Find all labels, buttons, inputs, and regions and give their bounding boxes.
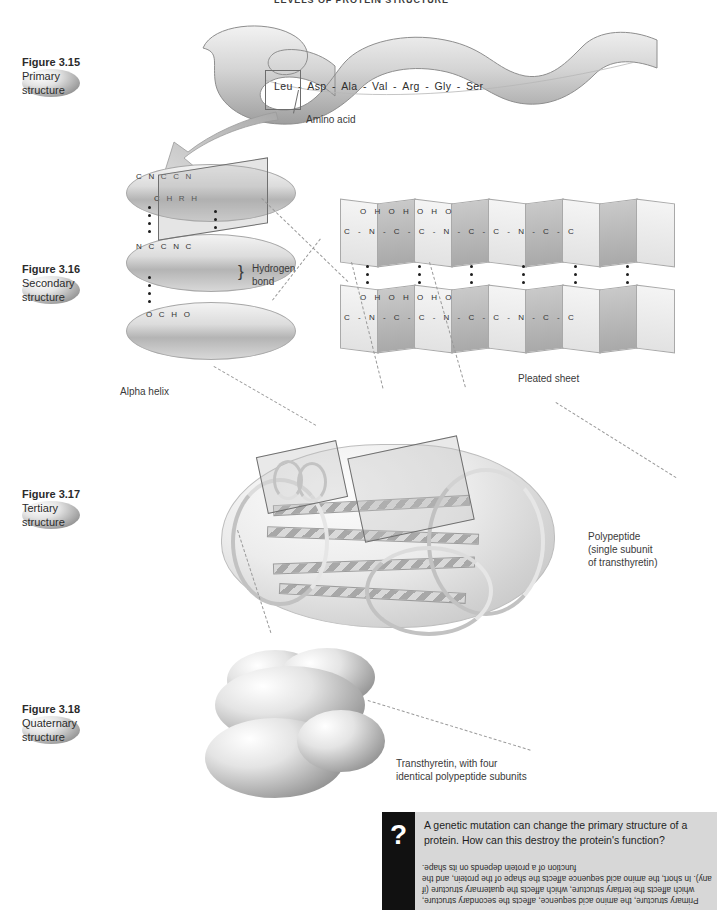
residue-val: Val [371, 80, 389, 92]
sheet-atom-row-2: C - N - C - C - N - C - C - N - C - C [344, 313, 577, 322]
residue-gly: Gly [433, 80, 452, 92]
question-mark-icon: ? [382, 812, 415, 858]
residue-ala: Ala [340, 80, 358, 92]
polypeptide-callout: Polypeptide (single subunit of transthyr… [588, 530, 657, 569]
figure-title-primary: Primary structure [22, 69, 80, 97]
pleat-facet [636, 199, 675, 268]
sequence-sep-4: - [392, 80, 398, 92]
sheet-hydrogen-bond-dots [626, 265, 629, 289]
hydrogen-bond-brace-icon: } [238, 262, 244, 282]
alpha-helix-label: Alpha helix [120, 385, 169, 398]
sheet-atom-row-1b: O H O H O H O [360, 207, 455, 216]
pleat-facet [636, 285, 675, 354]
question-box: ? A genetic mutation can change the prim… [382, 812, 717, 858]
residue-asp: Asp [306, 80, 327, 92]
polypeptide-callout-line1: Polypeptide [588, 531, 640, 542]
amino-acid-callout: Amino acid [306, 113, 355, 126]
sequence-sep-2: - [331, 80, 337, 92]
polypeptide-callout-line2: (single subunit [588, 544, 652, 555]
residue-ser: Ser [465, 80, 485, 92]
answer-box: Primary structure, the amino acid sequen… [382, 858, 717, 910]
figure-label-tertiary: Figure 3.17 Tertiary structure [22, 487, 80, 501]
hydrogen-bond-dots-mid [214, 210, 217, 234]
transthyretin-callout-line2: identical polypeptide subunits [396, 771, 527, 782]
ribbon-loop [365, 546, 493, 636]
sheet-hydrogen-bond-dots [470, 265, 473, 289]
sequence-sep-3: - [362, 80, 368, 92]
figure-title-secondary: Secondary structure [22, 276, 80, 304]
question-text: A genetic mutation can change the primar… [424, 818, 709, 848]
helix-atom-row-4: O C H O [146, 310, 192, 319]
pleated-sheet-strand-1: C - N - C - C - N - C - C - N - C - C O … [340, 201, 695, 263]
polypeptide-callout-line3: of transthyretin) [588, 557, 657, 568]
answer-badge [382, 858, 415, 910]
figure-label-quaternary: Figure 3.18 Quaternary structure [22, 702, 80, 716]
helix-atom-row-3: N C C N C [136, 242, 194, 251]
sequence-sep-6: - [456, 80, 462, 92]
figure-label-primary: Figure 3.15 Primary structure [22, 55, 80, 69]
tertiary-structure-illustration [215, 438, 565, 638]
pleat-facet [599, 285, 638, 354]
pleated-sheet-illustration: C - N - C - C - N - C - C - N - C - C O … [340, 195, 700, 385]
figure-number-quaternary: Figure 3.18 [22, 702, 80, 716]
sheet-hydrogen-bond-dots [366, 265, 369, 289]
sheet-hydrogen-bond-dots [574, 265, 577, 289]
sheet-atom-row-1: C - N - C - C - N - C - C - N - C - C [344, 227, 577, 236]
hydrogen-bond-label-line1: Hydrogen [252, 263, 295, 274]
figure-number-tertiary: Figure 3.17 [22, 487, 80, 501]
hydrogen-bond-label-line2: bond [252, 276, 274, 287]
hydrogen-bond-dots-lower [148, 276, 151, 308]
connector-sheet-right-edge [555, 402, 676, 478]
answer-text-inverted: Primary structure, the amino acid sequen… [422, 862, 712, 906]
page-header: LEVELS OF PROTEIN STRUCTURE [0, 0, 723, 5]
transthyretin-callout: Transthyretin, with four identical polyp… [396, 757, 527, 783]
subunit-right [297, 710, 385, 772]
sequence-sep-5: - [424, 80, 430, 92]
transthyretin-callout-line1: Transthyretin, with four [396, 758, 497, 769]
residue-arg: Arg [401, 80, 421, 92]
sheet-hydrogen-bond-dots [522, 265, 525, 289]
figure-number-secondary: Figure 3.16 [22, 262, 80, 276]
figure-number-primary: Figure 3.15 [22, 55, 80, 69]
quaternary-structure-illustration [205, 648, 405, 813]
figure-title-tertiary: Tertiary structure [22, 501, 80, 529]
pleated-sheet-label: Pleated sheet [518, 372, 579, 385]
sheet-hydrogen-bond-dots [418, 265, 421, 289]
pleat-facet [599, 199, 638, 268]
figure-label-secondary: Figure 3.16 Secondary structure [22, 262, 80, 276]
figure-title-quaternary: Quaternary structure [22, 716, 80, 744]
hydrogen-bond-dots-left [148, 206, 151, 238]
hydrogen-bond-label: Hydrogen bond [252, 262, 295, 288]
pleated-sheet-strand-2: C - N - C - C - N - C - C - N - C - C O … [340, 287, 695, 349]
amino-acid-sequence: Leu - Asp - Ala - Val - Arg - Gly - Ser [273, 80, 484, 92]
